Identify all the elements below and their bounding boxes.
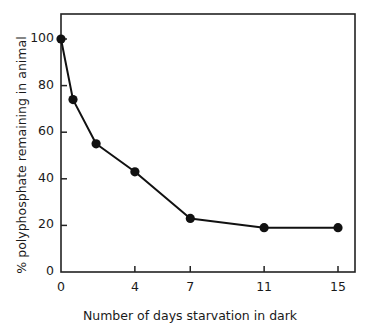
data-point-marker [260, 223, 269, 232]
x-axis-label: Number of days starvation in dark [40, 308, 340, 323]
y-tick-label: 40 [20, 172, 54, 184]
x-tick-label: 15 [326, 281, 350, 293]
x-tick-label: 0 [49, 281, 73, 293]
y-tick-label: 20 [20, 218, 54, 230]
data-point-marker [130, 167, 139, 176]
y-tick-label: 100 [20, 32, 54, 44]
plot-frame [61, 14, 355, 272]
x-tick-label: 4 [123, 281, 147, 293]
data-point-marker [56, 34, 65, 43]
data-point-marker [92, 139, 101, 148]
data-points [56, 34, 342, 232]
data-point-marker [333, 223, 342, 232]
data-line [61, 39, 338, 228]
y-tick-label: 0 [20, 265, 54, 277]
y-tick-label: 60 [20, 125, 54, 137]
x-tick-label: 7 [178, 281, 202, 293]
chart-figure: % polyphosphate remaining in animal 0204… [0, 0, 366, 334]
data-point-marker [186, 214, 195, 223]
x-tick-label: 11 [252, 281, 276, 293]
x-tick-marks [135, 266, 338, 272]
data-point-marker [68, 95, 77, 104]
y-tick-label: 80 [20, 79, 54, 91]
